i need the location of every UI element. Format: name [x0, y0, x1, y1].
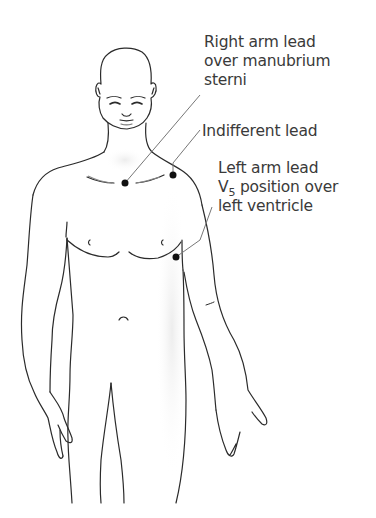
- position-text: position over: [235, 178, 338, 196]
- label-line: Left arm lead: [218, 159, 338, 178]
- head-outline: [96, 48, 156, 129]
- torso-left: [67, 238, 73, 503]
- label-line: Right arm lead: [204, 33, 330, 52]
- right-arm-outer: [202, 205, 267, 425]
- label-line: Indifferent lead: [202, 122, 317, 141]
- label-right-arm-lead: Right arm lead over manubrium sterni: [204, 33, 330, 90]
- neck-right: [146, 123, 152, 152]
- leader-indifferent: [173, 130, 200, 175]
- label-line: over manubrium: [204, 52, 330, 71]
- leader-right-arm: [125, 95, 200, 183]
- electrode-indifferent-lead: [170, 172, 177, 179]
- v-letter: V: [218, 178, 228, 196]
- electrode-left-arm-lead: [173, 254, 180, 261]
- neck-left: [104, 123, 108, 152]
- left-arm-outer: [21, 195, 63, 458]
- label-line: sterni: [204, 71, 330, 90]
- label-left-arm-lead: Left arm lead V5 position over left vent…: [218, 159, 338, 216]
- right-arm-inner: [184, 272, 216, 410]
- label-line-v5: V5 position over: [218, 178, 338, 197]
- crotch: [100, 383, 111, 503]
- pectoral-left: [67, 240, 119, 257]
- right-hand: [216, 410, 240, 456]
- body-outline: [21, 48, 266, 503]
- shoulder-left: [33, 152, 104, 195]
- label-line: left ventricle: [218, 197, 338, 216]
- label-indifferent-lead: Indifferent lead: [202, 122, 317, 141]
- left-arm-inner: [50, 238, 67, 392]
- electrode-right-arm-lead: [122, 180, 129, 187]
